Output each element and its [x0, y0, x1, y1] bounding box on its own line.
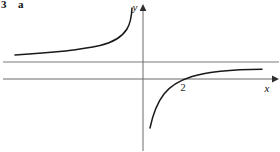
graph-plot: x y 2 — [0, 0, 280, 152]
x-intercept-label: 2 — [180, 81, 186, 93]
curve-left-branch — [15, 8, 132, 55]
x-axis-arrowhead — [272, 76, 279, 83]
x-axis-label: x — [264, 82, 270, 94]
figure-canvas: 3 a x y 2 — [0, 0, 280, 152]
y-axis-arrowhead — [140, 4, 147, 11]
curve-right-branch — [150, 69, 262, 128]
